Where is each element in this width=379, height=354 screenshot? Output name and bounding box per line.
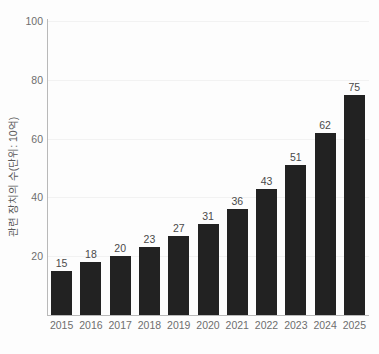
bar-column: 51 (285, 0, 306, 315)
bar-column: 23 (139, 0, 160, 315)
y-tick-label: 20 (3, 250, 43, 262)
bar-value-label: 62 (319, 119, 331, 131)
y-tick-label: 40 (3, 191, 43, 203)
x-tick-label: 2016 (79, 319, 102, 331)
bar (315, 133, 336, 315)
bar-column: 18 (80, 0, 101, 315)
bar (168, 236, 189, 315)
bar-value-label: 23 (144, 233, 156, 245)
y-axis-ticks: 20406080100 (0, 0, 43, 354)
bar-chart: 관련 장치의 수(단위: 10억) 20406080100 1518202327… (0, 0, 379, 354)
y-tick-label: 100 (3, 15, 43, 27)
bar (227, 209, 248, 315)
bar-value-label: 20 (114, 242, 126, 254)
x-tick-label: 2025 (343, 319, 366, 331)
bar-column: 15 (51, 0, 72, 315)
bar (110, 256, 131, 315)
x-tick-label: 2020 (196, 319, 219, 331)
bar (285, 165, 306, 315)
x-tick-label: 2023 (284, 319, 307, 331)
bar-column: 36 (227, 0, 248, 315)
bar (344, 95, 365, 316)
bar-column: 62 (315, 0, 336, 315)
bar (256, 189, 277, 315)
bar-column: 27 (168, 0, 189, 315)
x-tick-label: 2017 (108, 319, 131, 331)
bar-series: 1518202327313643516275 (47, 0, 369, 315)
x-tick-label: 2024 (313, 319, 336, 331)
y-tick-label: 80 (3, 74, 43, 86)
bar-column: 31 (198, 0, 219, 315)
bar-value-label: 31 (202, 210, 214, 222)
x-tick-label: 2015 (50, 319, 73, 331)
x-tick-label: 2021 (226, 319, 249, 331)
bar (80, 262, 101, 315)
bar (139, 247, 160, 315)
bar-value-label: 15 (56, 257, 68, 269)
bar-value-label: 51 (290, 151, 302, 163)
bar-column: 75 (344, 0, 365, 315)
bar-value-label: 27 (173, 222, 185, 234)
bar-value-label: 36 (231, 195, 243, 207)
bar-value-label: 43 (261, 175, 273, 187)
x-tick-label: 2019 (167, 319, 190, 331)
x-tick-label: 2022 (255, 319, 278, 331)
bar (198, 224, 219, 315)
x-axis-line (47, 315, 369, 316)
bar-value-label: 18 (85, 248, 97, 260)
y-tick-label: 60 (3, 133, 43, 145)
bar (51, 271, 72, 315)
bar-column: 43 (256, 0, 277, 315)
bar-column: 20 (110, 0, 131, 315)
x-axis-ticks: 2015201620172018201920202021202220232024… (47, 319, 369, 337)
bar-value-label: 75 (349, 81, 361, 93)
x-tick-label: 2018 (138, 319, 161, 331)
